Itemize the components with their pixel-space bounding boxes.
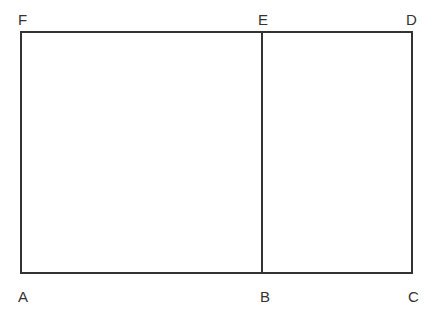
label-b: B <box>260 288 270 305</box>
label-d: D <box>406 11 417 28</box>
label-e: E <box>258 11 268 28</box>
geometry-diagram: F E D A B C <box>0 0 435 309</box>
label-f: F <box>18 11 27 28</box>
label-a: A <box>18 288 28 305</box>
outer-rectangle <box>21 32 412 273</box>
label-c: C <box>408 288 419 305</box>
vertex-labels: F E D A B C <box>18 11 419 305</box>
